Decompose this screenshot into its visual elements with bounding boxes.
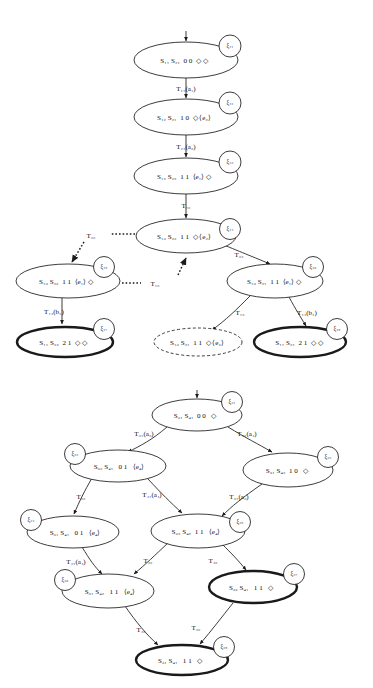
edge-label-T13-a: T₁₃ xyxy=(150,280,160,288)
edge-label-T32-b: T₃₂ xyxy=(143,557,153,565)
edge-label-T41a4-b: T₄₁(a₄) xyxy=(142,491,162,499)
edge-label-T21a2: T₂₁(a₂) xyxy=(176,143,196,151)
edge-label-T14b1-a: T₁₄(b₁) xyxy=(44,308,64,316)
edge-label-T12: T₁₂ xyxy=(181,202,191,210)
edge-label-T13-b: T₁₃ xyxy=(235,309,245,317)
edge-label-T42-b: T₄₂ xyxy=(136,626,146,634)
edge-label-T32-a: T₃₂ xyxy=(76,493,86,501)
figure-canvas: ξ₁₁ S₁₁ S₂₁ 0 0 ◇ ◇ ξ₁₂ S₁₂ S₂₁ 1 0 ◇ ⟨e… xyxy=(0,0,373,688)
edge-labels-layer: T₁₁(a₁) T₂₁(a₂) T₁₂ T₂₂ T₁₃ T₂₃ T₁₄(b₁) … xyxy=(0,0,373,688)
edge-label-T41a4-a: T₄₁(a₄) xyxy=(237,430,257,438)
edge-label-T31a3-a: T₃₁(a₃) xyxy=(134,430,154,438)
edge-label-T11a1: T₁₁(a₁) xyxy=(176,85,196,93)
edge-label-T23: T₂₃ xyxy=(234,251,244,259)
edge-label-T32-c: T₃₂ xyxy=(191,624,201,632)
edge-label-T14b1-b: T₁₄(b₁) xyxy=(297,309,317,317)
edge-label-T42-a: T₄₂ xyxy=(208,557,218,565)
edge-label-T31a3-b: T₃₁(a₃) xyxy=(229,493,249,501)
edge-label-T22: T₂₂ xyxy=(86,232,96,240)
edge-label-T41a4-c: T₄₁(a₄) xyxy=(66,558,86,566)
